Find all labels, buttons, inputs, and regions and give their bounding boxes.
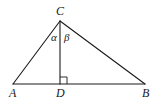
label-a: A [8, 86, 17, 100]
segment-cb [60, 21, 145, 84]
right-angle-marker [60, 77, 67, 84]
label-d: D [55, 86, 65, 100]
label-c: C [56, 4, 65, 18]
label-b: B [142, 86, 150, 100]
angle-alpha-label: α [51, 31, 57, 43]
angle-beta-label: β [63, 31, 70, 43]
triangle-diagram: C A D B α β [0, 0, 161, 104]
